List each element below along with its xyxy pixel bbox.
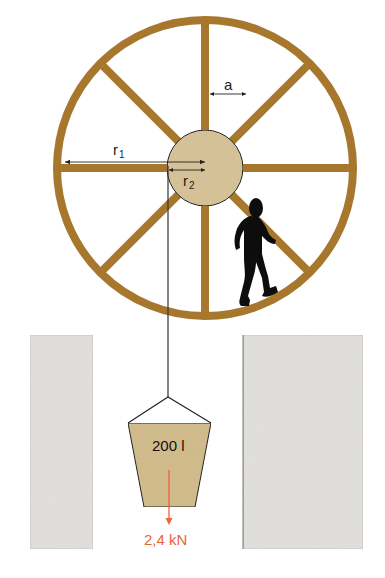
dimension-a: a	[210, 76, 246, 96]
person-silhouette-icon	[235, 198, 279, 306]
bucket-volume-label: 200 l	[152, 437, 185, 454]
label-r1-main: r	[113, 141, 118, 158]
bucket-bail	[128, 397, 211, 423]
label-r1: r1	[113, 141, 125, 160]
arrow-down-icon	[166, 518, 173, 525]
left-wall	[30, 335, 93, 549]
treadwheel-diagram: a r1 r2 200 l 2,4 kN	[0, 0, 385, 578]
label-r2-sub: 2	[189, 180, 195, 191]
label-a: a	[224, 76, 233, 93]
label-r1-sub: 1	[119, 149, 125, 160]
wheel-hub	[167, 130, 243, 206]
right-wall	[243, 335, 363, 549]
label-r2-main: r	[183, 172, 188, 189]
treadwheel	[57, 20, 353, 316]
force-label: 2,4 kN	[144, 531, 187, 548]
